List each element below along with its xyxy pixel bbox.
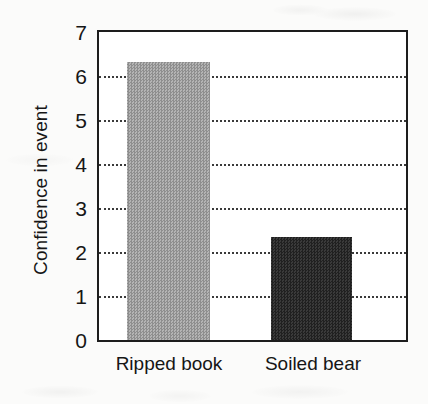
bar-soiled-bear: [271, 237, 352, 340]
x-category-label-ripped-book: Ripped book: [116, 354, 223, 373]
y-tick-label-4: 4: [75, 153, 87, 174]
bar-chart-figure: Confidence in event 7 6 5 4 3 2 1 0: [0, 0, 428, 404]
x-category-label-soiled-bear: Soiled bear: [265, 354, 361, 373]
y-tick-label-3: 3: [75, 198, 87, 219]
y-tick-label-5: 5: [75, 109, 87, 130]
bar-ripped-book: [127, 62, 210, 340]
y-tick-label-0: 0: [75, 330, 87, 351]
y-axis-title: Confidence in event: [30, 40, 52, 340]
y-tick-label-1: 1: [75, 286, 87, 307]
plot-area: 7 6 5 4 3 2 1 0: [97, 30, 408, 342]
y-tick-label-6: 6: [75, 65, 87, 86]
y-tick-label-7: 7: [75, 22, 87, 43]
y-tick-label-2: 2: [75, 242, 87, 263]
